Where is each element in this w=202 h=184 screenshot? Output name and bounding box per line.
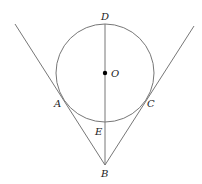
label-d: D bbox=[100, 11, 109, 22]
center-point-o bbox=[103, 71, 107, 75]
tangent-line-bc bbox=[105, 26, 194, 165]
tangent-line-ba bbox=[15, 24, 105, 165]
label-a: A bbox=[53, 98, 61, 109]
label-c: C bbox=[147, 98, 155, 109]
label-e: E bbox=[94, 126, 103, 137]
label-b: B bbox=[100, 168, 108, 179]
label-o: O bbox=[111, 68, 119, 79]
geometry-diagram: D O A C E B bbox=[0, 0, 202, 184]
